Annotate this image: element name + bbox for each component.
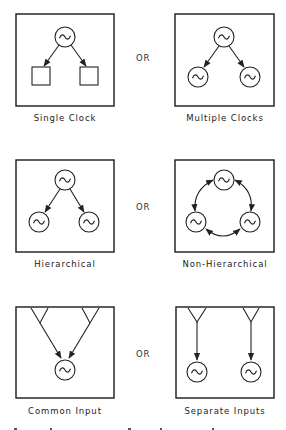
arrow-icon bbox=[44, 45, 59, 66]
panel-separate-inputs bbox=[176, 307, 274, 398]
arrow-icon bbox=[229, 46, 244, 67]
oscillator-icon bbox=[55, 360, 75, 380]
panel-single-clock bbox=[16, 14, 114, 106]
oscillator-icon bbox=[55, 170, 75, 190]
panel-non-hierarchical bbox=[175, 160, 274, 252]
or-connector: OR bbox=[136, 202, 150, 212]
label-multiple-clocks: Multiple Clocks bbox=[186, 113, 264, 123]
label-common-input: Common Input bbox=[28, 406, 102, 416]
oscillator-icon bbox=[186, 212, 206, 232]
oscillator-icon bbox=[214, 27, 234, 47]
arrow-icon bbox=[71, 45, 86, 66]
bidirectional-arrow-icon bbox=[206, 229, 240, 236]
oscillator-icon bbox=[55, 27, 75, 47]
oscillator-icon bbox=[240, 212, 260, 232]
input-receptor-icon bbox=[243, 308, 259, 322]
or-connector: OR bbox=[136, 349, 150, 359]
oscillator-icon bbox=[241, 362, 261, 382]
unit-square-icon bbox=[32, 67, 50, 85]
oscillator-icon bbox=[29, 212, 49, 232]
label-separate-inputs: Separate Inputs bbox=[184, 406, 265, 416]
oscillator-icon bbox=[187, 362, 207, 382]
arrow-icon bbox=[40, 323, 61, 358]
or-connector: OR bbox=[136, 53, 150, 63]
oscillator-icon bbox=[214, 170, 234, 190]
panel-multiple-clocks bbox=[175, 14, 274, 106]
bidirectional-arrow-icon bbox=[235, 180, 251, 211]
label-single-clock: Single Clock bbox=[34, 113, 97, 123]
arrow-icon bbox=[69, 323, 90, 358]
input-receptor-icon bbox=[31, 308, 48, 323]
input-receptor-icon bbox=[188, 308, 206, 322]
oscillator-icon bbox=[188, 67, 208, 87]
bidirectional-arrow-icon bbox=[195, 180, 213, 211]
input-receptor-icon bbox=[82, 308, 99, 323]
oscillator-icon bbox=[79, 212, 99, 232]
label-hierarchical: Hierarchical bbox=[34, 259, 95, 269]
panel-common-input bbox=[16, 307, 114, 398]
oscillator-icon bbox=[240, 67, 260, 87]
arrow-icon bbox=[70, 189, 84, 212]
arrow-icon bbox=[204, 46, 219, 67]
unit-square-icon bbox=[80, 67, 98, 85]
panel-hierarchical bbox=[16, 160, 114, 252]
oscillator-organization-diagram: Single Clock OR Multiple Clocks Hierarch… bbox=[0, 0, 286, 430]
arrow-icon bbox=[45, 189, 60, 212]
label-non-hierarchical: Non-Hierarchical bbox=[182, 259, 267, 269]
